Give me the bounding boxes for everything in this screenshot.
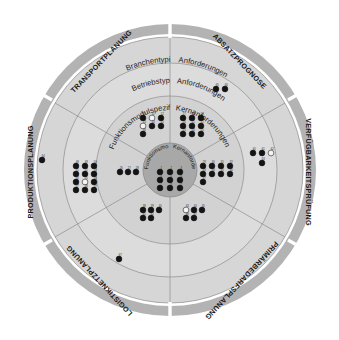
outer-label-produktionsplanung[interactable]: PRODUKTIONSPLANUNG — [26, 125, 35, 218]
requirement-dot-number: 16 — [143, 128, 146, 132]
requirement-dot[interactable] — [259, 160, 265, 166]
dot-cluster: 123456789 — [157, 166, 183, 191]
wheel-svg: TRANSPORTPLANUNG ABSATZPROGNOSE VERFÜGBA… — [0, 0, 339, 340]
requirement-dot-number: 65 — [216, 83, 219, 87]
requirement-dot[interactable] — [125, 169, 131, 175]
requirement-dot-number: 19 — [201, 112, 204, 116]
requirement-dot-number: 24 — [192, 128, 195, 132]
requirement-dot-number: 37 — [203, 176, 206, 180]
requirement-dot-number: 28 — [136, 166, 139, 170]
requirement-dot[interactable] — [198, 131, 204, 137]
requirement-dot[interactable] — [227, 171, 233, 177]
requirement-dot[interactable] — [91, 187, 97, 193]
requirement-dot-number: 11 — [152, 112, 155, 116]
requirement-dot[interactable] — [133, 169, 139, 175]
requirement-dot-number: 55 — [85, 176, 88, 180]
requirement-dot-number: 57 — [76, 184, 79, 188]
requirement-dot-number: 58 — [85, 184, 88, 188]
requirement-dot-number: 64 — [42, 154, 45, 158]
requirement-dot-number: 67 — [119, 253, 122, 257]
requirement-dot[interactable] — [167, 185, 173, 191]
requirement-dot[interactable] — [213, 86, 219, 92]
requirement-dot-number: 41 — [143, 212, 146, 216]
requirement-dot[interactable] — [140, 131, 146, 137]
requirement-dot[interactable] — [39, 157, 45, 163]
requirement-dot[interactable] — [259, 150, 265, 156]
requirement-dot[interactable] — [140, 215, 146, 221]
requirement-dot-number: 40 — [159, 204, 162, 208]
requirement-dot-number: 27 — [128, 166, 131, 170]
requirement-dot-number: 39 — [151, 204, 154, 208]
requirement-dot[interactable] — [180, 131, 186, 137]
requirement-dot-number: 43 — [186, 204, 189, 208]
requirement-dot[interactable] — [199, 207, 205, 213]
requirement-dot-number: 15 — [161, 120, 164, 124]
requirement-dot[interactable] — [177, 185, 183, 191]
requirement-dot-number: 51 — [76, 168, 79, 172]
requirement-dot[interactable] — [250, 150, 256, 156]
requirement-dot-number: 29 — [203, 160, 206, 164]
outer-label-verfuegbarkeitspruefung[interactable]: VERFÜGBARKEITSPRÜFUNG — [304, 118, 313, 226]
requirement-dot[interactable] — [189, 131, 195, 137]
requirement-dot-number: 21 — [192, 120, 195, 124]
requirement-dot-number: 26 — [120, 166, 123, 170]
requirement-dot[interactable] — [209, 171, 215, 177]
requirement-dot-number: 54 — [76, 176, 79, 180]
requirement-dot-number: 50 — [94, 160, 97, 164]
requirement-dot-number: 38 — [143, 204, 146, 208]
requirement-dot-number: 25 — [201, 128, 204, 132]
requirement-dot-number: 56 — [94, 176, 97, 180]
requirement-dot-number: 23 — [183, 128, 186, 132]
requirement-dot-number: 34 — [212, 168, 215, 172]
requirement-dot[interactable] — [191, 215, 197, 221]
requirement-dot-number: 22 — [201, 120, 204, 124]
requirement-dot[interactable] — [116, 256, 122, 262]
requirement-dot[interactable] — [268, 150, 274, 156]
requirement-dot[interactable] — [156, 207, 162, 213]
requirement-dot-number: 32 — [230, 160, 233, 164]
requirement-dot-number: 44 — [194, 204, 197, 208]
requirement-dot[interactable] — [157, 185, 163, 191]
requirement-dot[interactable] — [117, 169, 123, 175]
requirement-dot-number: 62 — [271, 147, 274, 151]
requirement-dot[interactable] — [82, 187, 88, 193]
requirement-dot-number: 59 — [94, 184, 97, 188]
requirement-dot-number: 36 — [230, 168, 233, 172]
requirement-dot[interactable] — [149, 123, 155, 129]
requirement-dot-number: 35 — [221, 168, 224, 172]
requirement-dot-number: 10 — [143, 112, 146, 116]
requirement-dot-number: 14 — [152, 120, 155, 124]
requirement-dot[interactable] — [222, 86, 228, 92]
requirement-dot[interactable] — [200, 179, 206, 185]
requirement-dot-number: 45 — [202, 204, 205, 208]
requirement-dot-number: 61 — [262, 147, 265, 151]
requirement-dot-number: 46 — [186, 212, 189, 216]
requirement-dot-number: 48 — [76, 160, 79, 164]
requirement-dot-number: 47 — [194, 212, 197, 216]
requirement-dot-number: 33 — [203, 168, 206, 172]
requirement-dot[interactable] — [183, 215, 189, 221]
requirement-dot-number: 30 — [212, 160, 215, 164]
requirement-dot-number: 42 — [151, 212, 154, 216]
requirement-dot-number: 66 — [225, 83, 228, 87]
requirement-dot[interactable] — [148, 215, 154, 221]
requirement-dot-number: 12 — [161, 112, 164, 116]
requirement-dot-number: 63 — [262, 157, 265, 161]
requirement-dot[interactable] — [158, 123, 164, 129]
requirement-dot-number: 20 — [183, 120, 186, 124]
dot-cluster: 262728 — [117, 166, 139, 175]
requirements-wheel-diagram: TRANSPORTPLANUNG ABSATZPROGNOSE VERFÜGBA… — [0, 0, 339, 340]
requirement-dot-number: 60 — [253, 147, 256, 151]
dot-cluster: 484950515253545556575859 — [73, 160, 97, 193]
requirement-dot-number: 18 — [192, 112, 195, 116]
requirement-dot-number: 52 — [85, 168, 88, 172]
requirement-dot-number: 17 — [183, 112, 186, 116]
requirement-dot-number: 49 — [85, 160, 88, 164]
requirement-dot[interactable] — [218, 171, 224, 177]
dot-cluster: 171819202122232425 — [180, 112, 204, 137]
requirement-dot-number: 53 — [94, 168, 97, 172]
requirement-dot-number: 31 — [221, 160, 224, 164]
requirement-dot-number: 13 — [143, 120, 146, 124]
requirement-dot[interactable] — [73, 187, 79, 193]
